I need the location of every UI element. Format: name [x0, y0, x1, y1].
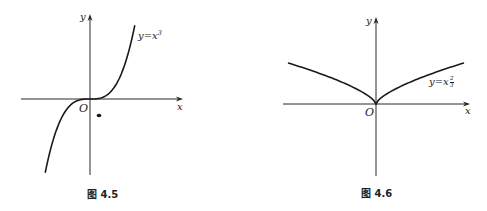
curve-label-exponent: 3 — [158, 29, 162, 37]
figure-4-5: y x O y=x3 图 4.5 — [0, 0, 243, 211]
origin-label: O — [365, 107, 374, 118]
curve-label-base: y=x — [429, 76, 449, 87]
y-axis-label: y — [80, 12, 86, 22]
y-axis-label: y — [366, 16, 372, 26]
figure-caption: 图 4.6 — [361, 189, 392, 199]
curve-label: y=x3 — [138, 30, 162, 41]
figure-caption: 图 4.5 — [87, 190, 118, 200]
curve-label-base: y=x — [138, 30, 158, 41]
figure-4-6: y x O y=x23 图 4.6 — [243, 0, 487, 211]
x-axis-label: x — [177, 102, 183, 112]
origin-label: O — [79, 103, 88, 114]
x-axis-label: x — [465, 106, 471, 116]
stray-dot — [97, 114, 102, 118]
cubic-plot — [0, 0, 243, 211]
curve-label: y=x23 — [429, 76, 454, 88]
curve-label-exponent: 23 — [450, 76, 454, 88]
